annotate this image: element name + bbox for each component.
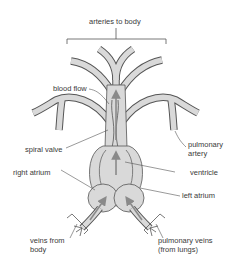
label-pulmonary-artery: pulmonary artery — [188, 140, 223, 158]
label-veins-from-body: veins from body — [30, 236, 65, 254]
label-pulmonary-veins: pulmonary veins (from lungs) — [158, 236, 213, 254]
label-right-atrium: right atrium — [13, 168, 51, 177]
label-arteries-to-body: arteries to body — [89, 17, 141, 26]
vein-brackets — [67, 214, 165, 234]
arteries-bracket — [67, 28, 166, 44]
label-spiral-valve: spiral valve — [25, 145, 63, 154]
heart-diagram: arteries to body blood flow spiral valve… — [0, 0, 233, 268]
left-atrium-shape — [114, 184, 144, 212]
heart-illustration — [0, 0, 233, 268]
label-left-atrium: left atrium — [182, 191, 215, 200]
label-ventricle: ventricle — [190, 168, 218, 177]
label-blood-flow: blood flow — [53, 84, 87, 93]
